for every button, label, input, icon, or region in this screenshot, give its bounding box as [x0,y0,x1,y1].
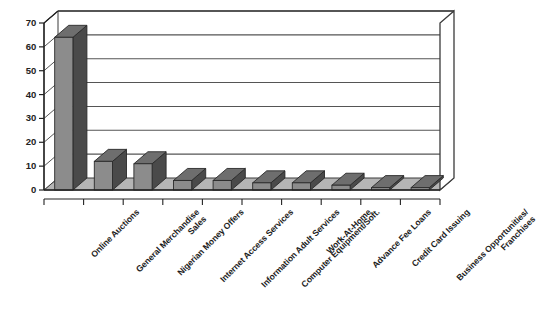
y-axis-tick-label: 10 [10,160,36,171]
category-label-line: Franchises [462,214,537,290]
y-axis-tick-label: 20 [10,136,36,147]
x-axis-category-label: Business Opportunities/Franchises [455,207,537,290]
y-axis-tick-label: 70 [10,17,36,28]
y-axis-tick-label: 60 [10,41,36,52]
y-axis-tick-label: 0 [10,184,36,195]
y-axis-tick-label: 50 [10,65,36,76]
y-axis-tick-label: 30 [10,112,36,123]
y-axis-tick-label: 40 [10,89,36,100]
bar-column [55,25,87,190]
